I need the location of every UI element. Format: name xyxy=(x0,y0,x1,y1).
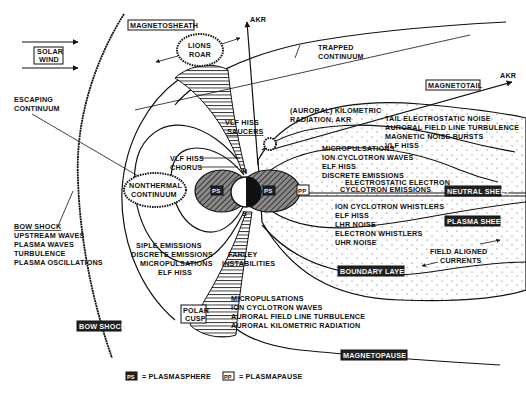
lions-roar-line1: LIONS xyxy=(188,41,211,50)
siple-line-3: ELF HISS xyxy=(158,268,192,277)
cusp-wave-3: AURORAL KILOMETRIC RADIATION xyxy=(231,321,361,330)
plasma-sheet-wave-3: ELECTRON WHISTLERS xyxy=(335,229,422,238)
field-aligned-line1: FIELD ALIGNED xyxy=(430,247,487,256)
legend-ps-text: = PLASMASPHERE xyxy=(142,372,211,381)
ps-marker-right: PS xyxy=(264,188,272,194)
escaping-continuum-line1: ESCAPING xyxy=(14,95,53,104)
vlf-hiss-saucers-line2: SAUCERS xyxy=(227,127,264,136)
lions-roar-line2: ROAR xyxy=(189,50,212,59)
electrostatic-electron-line2: CYCLOTRON EMISSIONS xyxy=(340,185,431,194)
escaping-continuum-line2: CONTINUUM xyxy=(14,104,60,113)
trapped-continuum-pointer xyxy=(295,45,300,58)
magnetotail-label: MAGNETOTAIL xyxy=(428,81,483,90)
polar-cusp-line2: CUSP xyxy=(185,314,206,323)
vlf-hiss-chorus-line1: VLF HISS xyxy=(170,154,204,163)
vlf-hiss-saucers-line1: VLF HISS xyxy=(225,118,259,127)
field-aligned-line2: CURRENTS xyxy=(440,256,482,265)
tail-wave-0: TAIL ELECTROSTATIC NOISE xyxy=(385,114,491,123)
nonthermal-line1: NONTHERMAL xyxy=(129,181,183,190)
farley-line1: FARLEY xyxy=(228,250,258,259)
farley-line2: INSTABILITIES xyxy=(222,259,275,268)
akr-top-label: AKR xyxy=(250,15,267,24)
cusp-wave-2: AURORAL FIELD LINE TURBULENCE xyxy=(231,312,365,321)
plasmapause-wave-2: ELF HISS xyxy=(322,162,356,171)
bow-shock-wave-0: UPSTREAM WAVES xyxy=(14,231,85,240)
bow-shock-wave-2: TURBULENCE xyxy=(14,249,66,258)
tail-wave-1: AURORAL FIELD LINE TURBULENCE xyxy=(385,123,519,132)
nonthermal-line2: CONTINUUM xyxy=(131,190,177,199)
bow-shock-wave-3: PLASMA OSCILLATIONS xyxy=(14,258,103,267)
trapped-continuum-line1: TRAPPED xyxy=(318,43,354,52)
magnetosheath-label: MAGNETOSHEATH xyxy=(130,21,198,30)
auroral-kilometric-line1: (AURORAL) KILOMETRIC xyxy=(290,106,381,115)
magnetosphere-diagram: N S PS PS PP AKR AKR LIONS ROAR NONTHERM… xyxy=(0,0,526,394)
legend-pp-symbol: PP xyxy=(224,374,232,380)
plasma-sheet-wave-4: UHR NOISE xyxy=(335,238,377,247)
plasma-sheet-wave-1: ELF HISS xyxy=(335,211,369,220)
boundary-layer-label: BOUNDARY LAYER xyxy=(340,267,410,276)
siple-line-2: MICROPULSATIONS xyxy=(140,259,213,268)
cusp-wave-1: ION CYCLOTRON WAVES xyxy=(231,303,323,312)
bow-shock-heading: BOW SHOCK xyxy=(14,222,62,231)
akr-tail-label: AKR xyxy=(500,71,517,80)
plasma-sheet-label: PLASMA SHEET xyxy=(447,217,506,226)
bow-shock-box-label: BOW SHOCK xyxy=(79,322,127,331)
tail-wave-2: MAGNETIC NOISE BURSTS xyxy=(385,132,483,141)
legend: PS = PLASMASPHERE PP = PLASMAPAUSE xyxy=(126,372,302,381)
siple-line-0: SIPLE EMISSIONS xyxy=(136,241,202,250)
trapped-continuum-line2: CONTINUUM xyxy=(318,52,364,61)
neutral-sheet-label: NEUTRAL SHEET xyxy=(447,187,510,196)
siple-line-1: DISCRETE EMISSIONS xyxy=(131,250,213,259)
solar-wind-line2: WIND xyxy=(39,55,59,64)
plasmapause-wave-0: MICROPULSATIONS xyxy=(322,144,395,153)
magnetopause-label: MAGNETOPAUSE xyxy=(343,351,406,360)
plasma-sheet-wave-2: LHR NOISE xyxy=(335,220,376,229)
plasma-sheet-wave-0: ION CYCLOTRON WHISTLERS xyxy=(335,202,444,211)
plasmapause-wave-1: ION CYCLOTRON WAVES xyxy=(322,153,414,162)
vlf-hiss-chorus-line2: CHORUS xyxy=(170,163,202,172)
auroral-kilometric-line2: RADIATION, AKR xyxy=(290,115,352,124)
earth xyxy=(231,177,261,207)
north-pole-label: N xyxy=(242,167,247,176)
south-pole-label: S xyxy=(242,209,247,218)
legend-pp-text: = PLASMAPAUSE xyxy=(239,372,302,381)
legend-ps-symbol: PS xyxy=(127,374,135,380)
bow-shock-curve xyxy=(78,14,124,358)
ps-marker-left: PS xyxy=(212,188,220,194)
cusp-wave-0: MICROPULSATIONS xyxy=(231,294,304,303)
escaping-continuum-pointer xyxy=(32,114,150,183)
akr-top-arrow xyxy=(247,22,258,165)
bow-shock-wave-1: PLASMA WAVES xyxy=(14,240,74,249)
akr-source-burst xyxy=(264,138,276,150)
pp-marker: PP xyxy=(298,188,306,194)
